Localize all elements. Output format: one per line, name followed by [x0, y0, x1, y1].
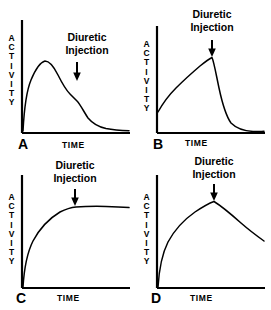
panel-a-arrow — [73, 62, 81, 81]
panel-b-curve — [158, 58, 264, 132]
y-letter: Y — [6, 98, 17, 107]
panel-c-annotation: Diuretic Injection — [40, 159, 110, 184]
panel-a-letter: A — [18, 136, 28, 152]
annotation-line-2: Injection — [40, 172, 110, 185]
panel-d-x-axis-label: TIME — [190, 293, 213, 303]
annotation-line-1: Diuretic — [177, 8, 247, 21]
panel-d-curve — [158, 202, 264, 288]
panel-d-axes — [157, 175, 265, 288]
panel-b-y-axis-label: A C T I V I T Y — [141, 40, 152, 114]
panel-c-curve — [23, 206, 129, 287]
annotation-line-2: Injection — [177, 21, 247, 34]
y-letter: Y — [141, 104, 152, 113]
y-letter: Y — [6, 257, 17, 266]
panel-a-plot — [0, 0, 135, 155]
y-letter: Y — [141, 257, 152, 266]
annotation-line-2: Injection — [52, 44, 122, 57]
panel-c: A C T I V I T Y Diuretic Injection TIME … — [0, 155, 135, 310]
panel-b-letter: B — [153, 136, 163, 152]
panel-d-y-axis-label: A C T I V I T Y — [141, 193, 152, 267]
panel-c-letter: C — [16, 290, 26, 306]
panel-a-y-axis-label: A C T I V I T Y — [6, 34, 17, 108]
panel-c-y-axis-label: A C T I V I T Y — [6, 193, 17, 267]
renogram-figure: A C T I V I T Y Diuretic Injection TIME … — [0, 0, 271, 310]
panel-a: A C T I V I T Y Diuretic Injection TIME … — [0, 0, 135, 155]
panel-a-x-axis-label: TIME — [62, 140, 85, 150]
panel-d-arrow — [210, 184, 218, 201]
panel-d: A C T I V I T Y Diuretic Injection TIME … — [135, 155, 270, 310]
annotation-line-1: Diuretic — [40, 159, 110, 172]
panel-b-arrow — [208, 40, 216, 57]
panel-b-annotation: Diuretic Injection — [177, 8, 247, 33]
panel-c-arrow — [71, 189, 79, 206]
panel-b: A C T I V I T Y Diuretic Injection TIME … — [135, 0, 270, 155]
panel-b-x-axis-label: TIME — [185, 138, 208, 148]
annotation-line-1: Diuretic — [52, 31, 122, 44]
panel-d-letter: D — [151, 290, 161, 306]
panel-d-annotation: Diuretic Injection — [179, 155, 249, 180]
annotation-line-2: Injection — [179, 168, 249, 181]
panel-a-annotation: Diuretic Injection — [52, 31, 122, 56]
annotation-line-1: Diuretic — [179, 155, 249, 168]
panel-c-x-axis-label: TIME — [57, 293, 80, 303]
